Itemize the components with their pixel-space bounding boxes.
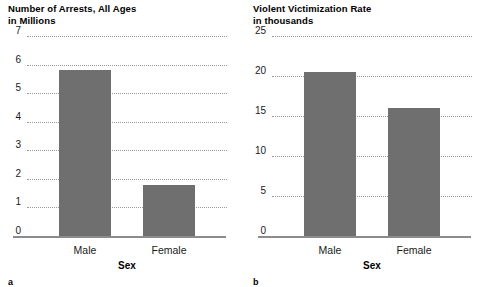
category-label-male-a: Male	[74, 244, 97, 256]
category-label-female-b: Female	[396, 244, 431, 256]
y-tick-label: 1	[15, 197, 21, 207]
panel-letter-b: b	[253, 277, 259, 287]
plot-area-b: 0510152025	[272, 36, 472, 236]
y-tick-label: 20	[255, 66, 266, 76]
plot-area-a: 01234567	[27, 36, 227, 236]
gridline	[27, 150, 227, 151]
bar-male	[59, 70, 111, 236]
x-axis-line-b	[258, 236, 471, 238]
gridline	[272, 156, 472, 157]
gridline	[272, 116, 472, 117]
panel-letter-a: a	[8, 277, 13, 287]
gridline	[27, 122, 227, 123]
y-tick-label: 7	[15, 26, 21, 36]
y-tick-label: 0	[260, 226, 266, 236]
bar-male	[304, 72, 356, 236]
y-tick-label: 4	[15, 112, 21, 122]
chart-panel-a: Number of Arrests, All Ages in Millions …	[0, 0, 240, 284]
y-tick-label: 2	[15, 169, 21, 179]
y-tick-label: 25	[255, 26, 266, 36]
y-tick-label: 3	[15, 140, 21, 150]
gridline	[272, 76, 472, 77]
y-tick-label: 5	[260, 186, 266, 196]
category-label-male-b: Male	[319, 244, 342, 256]
y-tick-label: 0	[15, 226, 21, 236]
category-label-female-a: Female	[151, 244, 186, 256]
gridline	[27, 36, 227, 37]
x-axis-title-b: Sex	[363, 260, 381, 271]
chart-title-a: Number of Arrests, All Ages in Millions	[8, 3, 136, 27]
y-tick-label: 5	[15, 83, 21, 93]
chart-title-b: Violent Victimization Rate in thousands	[253, 3, 371, 27]
gridline	[27, 179, 227, 180]
bar-female	[143, 185, 195, 236]
y-tick-label: 6	[15, 55, 21, 65]
gridline	[27, 207, 227, 208]
chart-panel-b: Violent Victimization Rate in thousands …	[245, 0, 481, 284]
y-tick-label: 10	[255, 146, 266, 156]
x-axis-line-a	[13, 236, 226, 238]
gridline	[272, 36, 472, 37]
gridline	[27, 93, 227, 94]
gridline	[272, 196, 472, 197]
x-axis-title-a: Sex	[118, 260, 136, 271]
bar-female	[388, 108, 440, 236]
y-tick-label: 15	[255, 106, 266, 116]
gridline	[27, 65, 227, 66]
